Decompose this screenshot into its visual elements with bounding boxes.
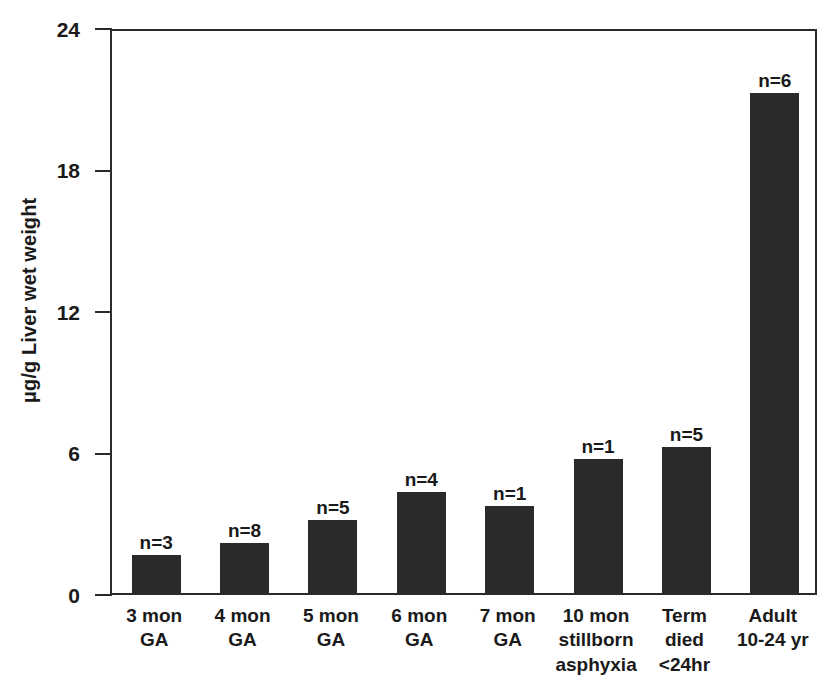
x-axis-category-label-line: GA: [464, 628, 552, 652]
x-axis-category-label-line: Adult: [729, 604, 817, 628]
x-axis-category-label-line: <24hr: [640, 653, 728, 677]
bar-value-label: n=8: [185, 521, 305, 540]
y-axis-tick-label-text: 0: [30, 585, 80, 606]
x-axis-category-label: 5 monGA: [287, 604, 375, 653]
bar: [750, 93, 799, 593]
bar: [662, 447, 711, 593]
x-axis-category-label: 6 monGA: [375, 604, 463, 653]
bar: [485, 506, 534, 593]
y-axis-tick-label-text: 18: [30, 160, 80, 181]
y-axis-tick-label: 0: [30, 584, 80, 606]
y-axis-tick-label: 12: [30, 301, 80, 323]
x-axis-category-label: 3 monGA: [110, 604, 198, 653]
bar: [132, 555, 181, 593]
bar: [308, 520, 357, 593]
x-axis-category-label-line: GA: [198, 628, 286, 652]
x-axis-category-label: Adult10-24 yr: [729, 604, 817, 653]
x-axis-category-label: 4 monGA: [198, 604, 286, 653]
y-axis-tick-label-text: 12: [30, 302, 80, 323]
y-axis-tick-label: 18: [30, 160, 80, 182]
plot-area: n=3n=8n=5n=4n=1n=1n=5n=6: [110, 29, 817, 595]
y-axis-tick-label-text: 6: [30, 443, 80, 464]
x-axis-category-label-line: 7 mon: [464, 604, 552, 628]
x-axis-category-label: Termdied<24hr: [640, 604, 728, 677]
y-axis-tick-label: 6: [30, 443, 80, 465]
y-axis-title: μg/g Liver wet weight: [10, 0, 50, 600]
bar-chart-figure: μg/g Liver wet weight 06121824 n=3n=8n=5…: [0, 0, 834, 677]
x-axis-category-label-line: GA: [287, 628, 375, 652]
x-axis-category-label-line: asphyxia: [552, 653, 640, 677]
bar-value-label: n=1: [450, 484, 570, 503]
x-axis-category-label-line: 4 mon: [198, 604, 286, 628]
bar: [220, 543, 269, 593]
bar: [397, 492, 446, 593]
x-axis-category-label-line: 6 mon: [375, 604, 463, 628]
y-axis-title-text: μg/g Liver wet weight: [19, 197, 42, 402]
x-axis-category-label-line: Term: [640, 604, 728, 628]
x-axis-category-label-line: GA: [375, 628, 463, 652]
x-axis-category-label-line: 5 mon: [287, 604, 375, 628]
bar-value-label: n=5: [626, 425, 746, 444]
y-axis-tick-label-text: 24: [30, 19, 80, 40]
x-axis-category-label: 7 monGA: [464, 604, 552, 653]
bar-value-label: n=6: [715, 71, 834, 90]
bar: [574, 459, 623, 593]
bar-value-label: n=5: [273, 498, 393, 517]
x-axis-category-label-line: 10 mon: [552, 604, 640, 628]
x-axis-category-label-line: GA: [110, 628, 198, 652]
y-axis-tick-label: 24: [30, 18, 80, 40]
x-axis-category-label-line: stillborn: [552, 628, 640, 652]
x-axis-category-label-line: died: [640, 628, 728, 652]
x-axis-category-label: 10 monstillbornasphyxia: [552, 604, 640, 677]
x-axis-category-label-line: 10-24 yr: [729, 628, 817, 652]
x-axis-category-label-line: 3 mon: [110, 604, 198, 628]
